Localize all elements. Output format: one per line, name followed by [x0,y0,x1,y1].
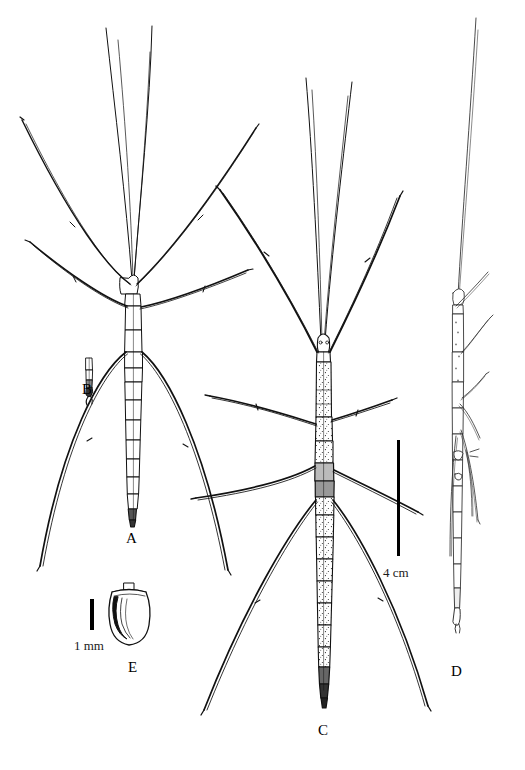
plate-artwork [0,0,525,770]
scale-bar-4cm-line [397,440,400,556]
figure-label-b: B [82,382,92,397]
figure-e-artwork [109,583,150,645]
scale-bar-1mm-label: 1 mm [74,639,104,652]
figure-label-d: D [451,664,462,679]
scale-bar-4cm-label: 4 cm [383,566,409,579]
figure-label-c: C [318,723,328,738]
scale-bar-1mm-line [90,599,94,630]
figure-label-a: A [126,531,137,546]
figure-d-artwork [450,18,493,633]
illustration-plate: A B C D E 4 cm 1 mm [0,0,525,770]
figure-label-e: E [128,660,138,675]
figure-a-artwork [20,26,259,575]
